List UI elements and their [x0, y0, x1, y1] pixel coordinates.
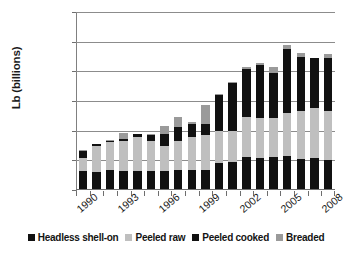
bar-segment: [283, 113, 291, 156]
bar-segment: [256, 118, 264, 158]
bar-segment: [79, 158, 87, 171]
stacked-bar[interactable]: [256, 63, 264, 190]
bar-segment: [174, 141, 182, 170]
bar-segment: [283, 156, 291, 190]
y-axis-tick-mark: [72, 42, 76, 43]
bar-segment: [147, 171, 155, 190]
bar-segment: [228, 162, 236, 190]
stacked-bar[interactable]: [283, 45, 291, 190]
bar-slot: [117, 12, 131, 190]
stacked-bar[interactable]: [242, 67, 250, 190]
legend-label: Headless shell-on: [38, 232, 119, 243]
bar-segment: [174, 117, 182, 126]
stacked-bar[interactable]: [160, 126, 168, 190]
bar-segment: [215, 95, 223, 131]
stacked-bar[interactable]: [174, 117, 182, 190]
bar-segment: [228, 83, 236, 131]
bar-segment: [201, 105, 209, 125]
stacked-bar[interactable]: [188, 122, 196, 190]
bar-segment: [174, 127, 182, 142]
legend-item[interactable]: Headless shell-on: [28, 232, 119, 243]
bar-segment: [242, 69, 250, 117]
bar-segment: [106, 142, 114, 170]
x-label-slot: 2005: [280, 196, 294, 228]
bar-slot: [76, 12, 90, 190]
y-axis-title: Lb (billions): [10, 18, 22, 138]
stacked-bar[interactable]: [297, 53, 305, 190]
bar-series-group: [76, 12, 335, 190]
legend-swatch-icon: [276, 234, 283, 241]
bar-segment: [160, 171, 168, 190]
bar-segment: [160, 146, 168, 172]
stacked-bar[interactable]: [324, 54, 332, 190]
y-axis-tick-mark: [72, 160, 76, 161]
x-label-slot: [294, 196, 308, 228]
bar-segment: [310, 108, 318, 158]
x-label-slot: [253, 196, 267, 228]
chart-legend: Headless shell-onPeeled rawPeeled cooked…: [0, 232, 352, 243]
bar-segment: [119, 141, 127, 171]
bar-segment: [133, 137, 141, 171]
stacked-bar[interactable]: [147, 134, 155, 190]
stacked-bar[interactable]: [269, 67, 277, 190]
bar-segment: [201, 124, 209, 135]
bar-segment: [256, 65, 264, 118]
legend-item[interactable]: Peeled cooked: [192, 232, 269, 243]
bar-slot: [308, 12, 322, 190]
x-label-slot: [103, 196, 117, 228]
plot-area: [76, 12, 335, 190]
stacked-bar[interactable]: [228, 82, 236, 190]
legend-item[interactable]: Breaded: [276, 232, 324, 243]
bar-segment: [92, 146, 100, 172]
legend-item[interactable]: Peeled raw: [125, 232, 185, 243]
bar-slot: [90, 12, 104, 190]
x-label-slot: 2002: [240, 196, 254, 228]
bar-segment: [119, 171, 127, 190]
stacked-bar[interactable]: [133, 134, 141, 190]
stacked-bar[interactable]: [215, 94, 223, 190]
bar-segment: [201, 170, 209, 190]
x-label-slot: [308, 196, 322, 228]
bar-slot: [199, 12, 213, 190]
legend-label: Breaded: [286, 232, 324, 243]
y-axis-tick-mark: [72, 12, 76, 13]
bar-segment: [283, 49, 291, 112]
bar-segment: [269, 118, 277, 158]
stacked-bar[interactable]: [92, 144, 100, 190]
bar-slot: [294, 12, 308, 190]
stacked-bar[interactable]: [201, 105, 209, 190]
bar-segment: [215, 163, 223, 190]
x-label-slot: 1990: [76, 196, 90, 228]
bar-segment: [269, 73, 277, 118]
bar-segment: [256, 158, 264, 190]
legend-swatch-icon: [28, 234, 35, 241]
stacked-bar[interactable]: [106, 140, 114, 190]
bar-slot: [144, 12, 158, 190]
bar-segment: [106, 170, 114, 190]
x-label-slot: 1993: [117, 196, 131, 228]
bar-segment: [310, 158, 318, 190]
stacked-bar[interactable]: [119, 133, 127, 190]
bar-slot: [280, 12, 294, 190]
bar-segment: [242, 157, 250, 190]
bar-segment: [188, 137, 196, 170]
legend-swatch-icon: [125, 234, 132, 241]
stacked-bar[interactable]: [310, 58, 318, 190]
bar-segment: [242, 117, 250, 157]
bar-segment: [228, 131, 236, 162]
x-label-slot: 1999: [199, 196, 213, 228]
bar-segment: [79, 171, 87, 190]
bar-segment: [201, 135, 209, 170]
bar-segment: [160, 126, 168, 134]
bar-segment: [324, 160, 332, 190]
x-label-slot: [226, 196, 240, 228]
bar-slot: [253, 12, 267, 190]
bar-segment: [324, 58, 332, 111]
x-label-slot: 2008: [321, 196, 335, 228]
y-axis-tick-mark: [72, 101, 76, 102]
x-label-slot: [144, 196, 158, 228]
bar-segment: [160, 134, 168, 145]
bar-slot: [158, 12, 172, 190]
stacked-bar[interactable]: [79, 150, 87, 190]
y-axis-tick-mark: [72, 71, 76, 72]
